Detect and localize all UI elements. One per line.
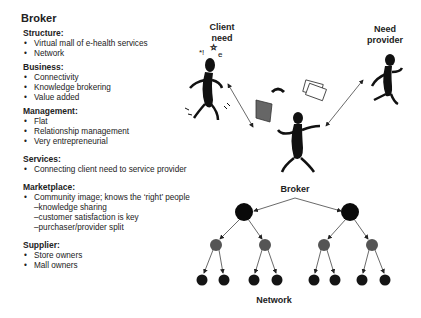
network-node-leaf bbox=[219, 275, 230, 286]
svg-text:☆: ☆ bbox=[210, 43, 217, 52]
network-node-level2 bbox=[210, 239, 222, 251]
network-node-leaf bbox=[380, 275, 391, 286]
broker-provider-arrow bbox=[326, 80, 363, 126]
client-broker-arrow bbox=[228, 84, 253, 127]
diagram-graphics: *! ☆ e bbox=[0, 0, 421, 318]
network-node-level1 bbox=[235, 203, 253, 221]
documents-icon bbox=[303, 80, 327, 101]
client-figure-icon: *! ☆ e bbox=[185, 43, 230, 120]
phone-icon bbox=[272, 89, 284, 92]
network-node-level1 bbox=[341, 203, 359, 221]
network-node-leaf bbox=[249, 275, 260, 286]
network-node-leaf bbox=[309, 275, 320, 286]
network-node-leaf bbox=[330, 275, 341, 286]
network-node-level2 bbox=[318, 239, 330, 251]
network-node-leaf bbox=[272, 275, 283, 286]
network-tree-nodes bbox=[197, 203, 391, 286]
broker-figure-icon bbox=[278, 112, 320, 172]
network-node-leaf bbox=[197, 275, 208, 286]
network-node-leaf bbox=[357, 275, 368, 286]
svg-text:*!: *! bbox=[199, 48, 204, 57]
svg-text:e: e bbox=[218, 50, 223, 59]
network-node-level2 bbox=[366, 239, 378, 251]
provider-figure-icon bbox=[372, 54, 402, 104]
keyboard-icon bbox=[256, 100, 272, 122]
network-node-level2 bbox=[259, 239, 271, 251]
